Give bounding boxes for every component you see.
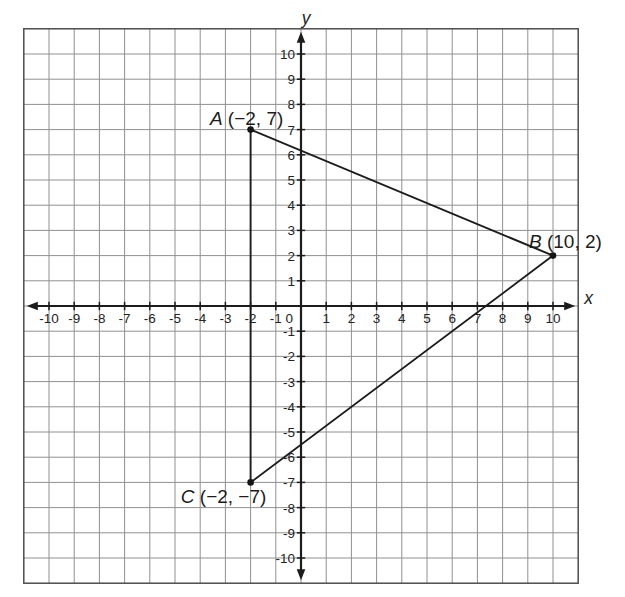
y-tick-label: 2 bbox=[287, 249, 295, 264]
x-axis-arrow-left bbox=[27, 302, 38, 311]
point-coordinates: (−2, −7) bbox=[195, 486, 267, 507]
figure-page: -10-9-8-7-6-5-4-3-2-11234567891010987654… bbox=[0, 0, 625, 597]
x-tick-label: 4 bbox=[398, 311, 406, 326]
y-tick-label: 6 bbox=[287, 148, 295, 163]
x-tick-label: 3 bbox=[373, 311, 381, 326]
point-letter: C bbox=[181, 486, 195, 507]
x-axis-label: x bbox=[583, 288, 594, 308]
x-tick-label: -1 bbox=[270, 311, 282, 326]
x-tick-label: 9 bbox=[524, 311, 532, 326]
point-b-label: B (10, 2) bbox=[529, 231, 602, 252]
axes-layer bbox=[27, 32, 575, 580]
y-tick-label: -4 bbox=[283, 400, 295, 415]
y-tick-label: 1 bbox=[287, 274, 295, 289]
origin-label: 0 bbox=[285, 311, 293, 326]
y-tick-label: -8 bbox=[283, 501, 295, 516]
point-b-dot bbox=[550, 252, 557, 259]
x-axis-arrow-right bbox=[564, 302, 575, 311]
coordinate-plane: -10-9-8-7-6-5-4-3-2-11234567891010987654… bbox=[0, 0, 625, 597]
point-letter: A bbox=[209, 108, 223, 129]
y-tick-label: -1 bbox=[283, 324, 295, 339]
y-tick-label: 9 bbox=[287, 72, 295, 87]
x-tick-label: 1 bbox=[322, 311, 330, 326]
y-tick-label: 4 bbox=[287, 198, 295, 213]
y-tick-label: 3 bbox=[287, 223, 295, 238]
point-a-label: A (−2, 7) bbox=[209, 108, 283, 129]
y-tick-label: 7 bbox=[287, 123, 295, 138]
y-axis-arrow-up bbox=[297, 32, 306, 43]
point-coordinates: (10, 2) bbox=[542, 231, 602, 252]
x-tick-label: -5 bbox=[169, 311, 181, 326]
x-tick-label: -4 bbox=[194, 311, 206, 326]
y-tick-label: -7 bbox=[283, 475, 295, 490]
x-tick-label: -10 bbox=[39, 311, 59, 326]
y-axis-arrow-down bbox=[297, 569, 306, 580]
y-axis-label: y bbox=[301, 8, 312, 28]
x-tick-label: -9 bbox=[68, 311, 80, 326]
y-tick-label: 8 bbox=[287, 97, 295, 112]
y-tick-label: -2 bbox=[283, 349, 295, 364]
point-c-dot bbox=[247, 479, 254, 486]
x-tick-label: -8 bbox=[93, 311, 105, 326]
y-tick-label: -3 bbox=[283, 375, 295, 390]
y-tick-label: -10 bbox=[275, 551, 295, 566]
point-letter: B bbox=[529, 231, 542, 252]
x-tick-label: 10 bbox=[545, 311, 560, 326]
y-tick-label: 5 bbox=[287, 173, 295, 188]
point-c-label: C (−2, −7) bbox=[181, 486, 267, 507]
x-tick-label: 2 bbox=[348, 311, 356, 326]
x-tick-label: 5 bbox=[423, 311, 431, 326]
x-tick-label: -7 bbox=[119, 311, 131, 326]
y-tick-label: -9 bbox=[283, 526, 295, 541]
point-coordinates: (−2, 7) bbox=[223, 108, 284, 129]
x-tick-label: -3 bbox=[219, 311, 231, 326]
y-tick-label: -5 bbox=[283, 425, 295, 440]
x-tick-label: 6 bbox=[448, 311, 456, 326]
x-tick-label: 8 bbox=[499, 311, 507, 326]
y-tick-label: 10 bbox=[280, 47, 295, 62]
x-tick-label: -6 bbox=[144, 311, 156, 326]
